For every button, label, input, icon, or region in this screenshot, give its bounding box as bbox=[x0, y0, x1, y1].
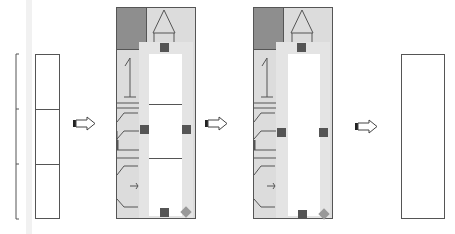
resize-handle-right[interactable] bbox=[182, 125, 191, 134]
arrow-right-icon bbox=[73, 117, 95, 130]
resize-handle-bottom[interactable] bbox=[160, 208, 169, 217]
resize-handle-left[interactable] bbox=[140, 125, 149, 134]
stage-2 bbox=[117, 8, 196, 219]
three-cell-rectangle bbox=[35, 55, 60, 219]
arrow-right-icon bbox=[355, 120, 377, 133]
stage-3 bbox=[254, 8, 333, 220]
stage-4 bbox=[402, 55, 445, 219]
resize-handle-right[interactable] bbox=[319, 128, 328, 137]
resize-handle-bottom[interactable] bbox=[298, 210, 307, 219]
diagram-canvas bbox=[0, 0, 455, 234]
resize-handle-top[interactable] bbox=[160, 43, 169, 52]
resize-handle-left[interactable] bbox=[277, 128, 286, 137]
bracket bbox=[16, 54, 19, 219]
stage-1 bbox=[16, 54, 60, 219]
empty-rectangle bbox=[402, 55, 445, 219]
resize-handle-top[interactable] bbox=[297, 43, 306, 52]
arrow-right-icon bbox=[205, 117, 227, 130]
